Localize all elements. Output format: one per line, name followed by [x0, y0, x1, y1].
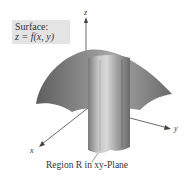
y-axis: [130, 118, 171, 130]
y-axis-label: y: [174, 124, 178, 133]
x-axis: [39, 108, 88, 147]
region-caption: Region R in xy-Plane: [46, 160, 128, 170]
z-axis-label: z: [84, 8, 87, 17]
region-column: [88, 55, 130, 153]
surface-label: Surface: z = f(x, y): [12, 20, 70, 44]
surface-label-equation: z = f(x, y): [15, 32, 67, 42]
x-axis-label: x: [30, 146, 34, 155]
z-axis: [84, 17, 88, 52]
surface-region-diagram: Surface: z = f(x, y) z y x Region R in x…: [0, 0, 195, 178]
